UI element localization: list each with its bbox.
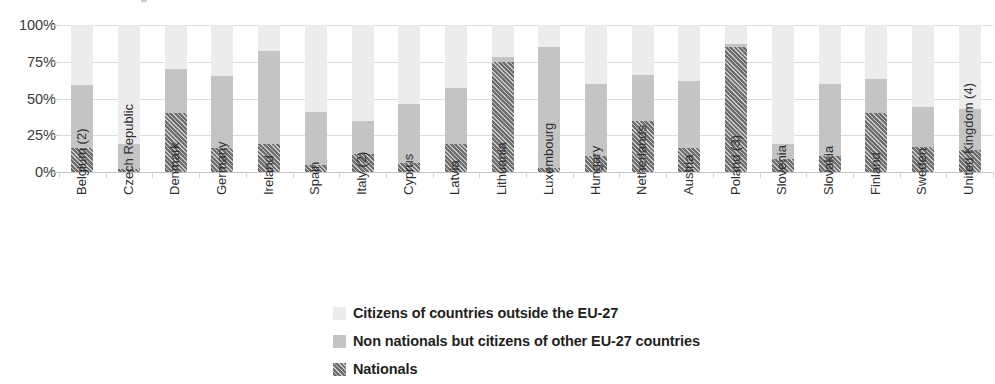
x-tickmark: [152, 172, 153, 178]
bar-segment-outside-eu27: [398, 25, 420, 104]
bar-segment-outside-eu27: [352, 25, 374, 121]
x-tickmark: [339, 172, 340, 178]
bar-segment-outside-eu27: [71, 25, 93, 85]
bar-segment-other-eu27: [632, 75, 654, 121]
bar-segment-outside-eu27: [865, 25, 887, 79]
y-tickmark: [54, 25, 59, 26]
x-axis-category-label: Netherlands: [635, 125, 648, 195]
legend-item[interactable]: Nationals: [333, 359, 417, 379]
bar-segment-other-eu27: [865, 79, 887, 113]
bar-segment-other-eu27: [912, 107, 934, 147]
x-axis-category-label: Slovakia: [822, 146, 835, 195]
bar-segment-other-eu27: [165, 69, 187, 113]
x-tickmark: [293, 172, 294, 178]
x-tickmark: [246, 172, 247, 178]
bar-stack: [865, 25, 887, 172]
y-tick-label: 0%: [35, 165, 56, 180]
bar-segment-other-eu27: [352, 121, 374, 155]
bar-stack: [305, 25, 327, 172]
legend-item[interactable]: Citizens of countries outside the EU-27: [333, 303, 618, 323]
bar-stack: [352, 25, 374, 172]
x-axis-category-label: United Kingdom (4): [962, 83, 975, 195]
x-tickmark: [760, 172, 761, 178]
x-tickmark: [433, 172, 434, 178]
x-axis-category-label: Germany: [215, 142, 228, 195]
legend-swatch-icon: [333, 335, 346, 348]
bar-segment-outside-eu27: [165, 25, 187, 69]
bar-segment-outside-eu27: [912, 25, 934, 107]
bar-stack: [445, 25, 467, 172]
bar-segment-other-eu27: [445, 88, 467, 144]
gridline: [59, 135, 993, 136]
x-axis-category-label: Denmark: [168, 142, 181, 195]
bar-segment-outside-eu27: [772, 25, 794, 144]
bar-stack: [398, 25, 420, 172]
x-tickmark: [713, 172, 714, 178]
x-axis-category-label: Ireland: [262, 155, 275, 195]
y-tick-label: 75%: [27, 55, 56, 70]
y-tick-label: 50%: [27, 91, 56, 106]
x-tickmark: [59, 172, 60, 178]
bar-segment-outside-eu27: [725, 25, 747, 44]
x-tickmark: [900, 172, 901, 178]
bar-stack: [258, 25, 280, 172]
bar-segment-other-eu27: [678, 81, 700, 149]
x-tickmark: [619, 172, 620, 178]
x-axis-category-label: Hungary: [589, 146, 602, 195]
x-axis-category-label: Italy (2): [355, 152, 368, 195]
gridline: [59, 25, 993, 26]
x-tickmark: [993, 172, 994, 178]
bar-segment-outside-eu27: [538, 25, 560, 47]
x-axis-category-label: Finland: [869, 152, 882, 195]
x-axis-category-label: Lithuania: [495, 142, 508, 195]
x-tickmark: [853, 172, 854, 178]
x-axis-category-label: Sweden: [915, 148, 928, 195]
legend-item[interactable]: Non nationals but citizens of other EU-2…: [333, 331, 700, 351]
bar-segment-outside-eu27: [632, 25, 654, 75]
y-tick-label: 100%: [19, 18, 56, 33]
x-axis-category-label: Latvia: [448, 160, 461, 195]
legend-label: Non nationals but citizens of other EU-2…: [353, 333, 700, 349]
x-axis-category-label: Austria: [682, 155, 695, 195]
bar-segment-other-eu27: [258, 51, 280, 144]
y-tickmark: [54, 135, 59, 136]
x-tickmark: [526, 172, 527, 178]
x-axis-category-label: Luxembourg: [542, 123, 555, 195]
gridline: [59, 62, 993, 63]
x-tickmark: [199, 172, 200, 178]
bar-segment-outside-eu27: [305, 25, 327, 112]
x-tickmark: [666, 172, 667, 178]
x-axis-category-label: Belgium (2): [75, 129, 88, 195]
legend-label: Citizens of countries outside the EU-27: [353, 305, 618, 321]
x-tickmark: [479, 172, 480, 178]
chart-container: g 100%75%50%25%0% Belgium (2)Czech Repub…: [0, 0, 995, 384]
cropped-title-sliver: g: [0, 0, 995, 9]
x-tickmark: [573, 172, 574, 178]
bar-segment-outside-eu27: [211, 25, 233, 76]
y-tick-label: 25%: [27, 128, 56, 143]
bar-segment-outside-eu27: [678, 25, 700, 81]
x-tickmark: [106, 172, 107, 178]
legend-swatch-icon: [333, 307, 346, 320]
bar-segment-other-eu27: [211, 76, 233, 148]
bar-segment-outside-eu27: [492, 25, 514, 57]
x-tickmark: [946, 172, 947, 178]
bar-segment-outside-eu27: [445, 25, 467, 88]
x-axis-category-label: Czech Republic: [122, 104, 135, 195]
cropped-title-text: g: [140, 0, 148, 2]
x-axis-category-label: Spain: [308, 162, 321, 195]
legend-label: Nationals: [353, 361, 417, 377]
x-axis-category-label: Poland (3): [729, 135, 742, 195]
x-axis-category-label: Cyprus: [402, 154, 415, 195]
bar-segment-outside-eu27: [585, 25, 607, 84]
x-tickmark: [386, 172, 387, 178]
y-tickmark: [54, 62, 59, 63]
legend-swatch-icon: [333, 363, 346, 376]
bar-stack: [678, 25, 700, 172]
bar-segment-outside-eu27: [258, 25, 280, 51]
y-tickmark: [54, 99, 59, 100]
plot-area: [59, 25, 993, 172]
x-tickmark: [806, 172, 807, 178]
bar-segment-outside-eu27: [819, 25, 841, 84]
gridline: [59, 99, 993, 100]
